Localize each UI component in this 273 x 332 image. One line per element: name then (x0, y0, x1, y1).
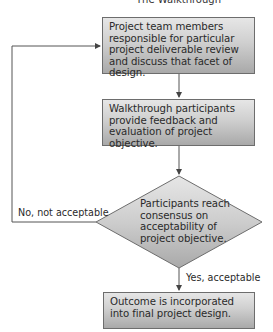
node-review: Project team members responsible for par… (102, 17, 255, 74)
edge-label-no: No, not acceptable (18, 207, 109, 218)
node-outcome: Outcome is incorporated into final proje… (103, 292, 255, 329)
node-review-text: Project team members responsible for par… (109, 21, 239, 78)
node-decision-text: Participants reach consensus on acceptab… (140, 198, 240, 244)
node-outcome-text: Outcome is incorporated into final proje… (110, 296, 234, 319)
node-feedback-text: Walkthrough participants provide feedbac… (109, 103, 235, 149)
node-feedback: Walkthrough participants provide feedbac… (102, 99, 255, 146)
edge-label-yes: Yes, acceptable (186, 272, 260, 283)
arrow-decision-to-review (12, 46, 100, 222)
